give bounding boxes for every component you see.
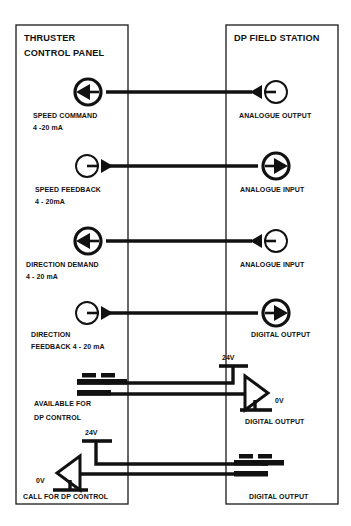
label-available-dp-line1: AVAILABLE FOR [34, 400, 91, 407]
dp-field-station-title: DP FIELD STATION [234, 33, 320, 43]
label-analogue-input-1: ANALOGUE INPUT [240, 186, 305, 193]
label-digital-output-3: DIGITAL OUTPUT [249, 493, 309, 500]
label-0v-call: 0V [36, 477, 45, 484]
label-direction-feedback-line1: DIRECTION [31, 331, 70, 338]
label-direction-demand-line1: DIRECTION DEMAND [26, 261, 99, 268]
label-direction-demand-line2: 4 - 20 mA [26, 273, 58, 280]
label-digital-output-1: DIGITAL OUTPUT [251, 331, 311, 338]
label-direction-feedback-line2: FEEDBACK 4 - 20 mA [31, 343, 105, 350]
label-speed-feedback-line1: SPEED FEEDBACK [35, 186, 101, 193]
diagram-canvas: THRUSTER CONTROL PANEL DP FIELD STATION … [0, 0, 351, 526]
label-24v-available: 24V [222, 354, 235, 361]
symbol-circle-arrow-in-left-direction-demand [75, 228, 101, 254]
label-analogue-output-1: ANALOGUE OUTPUT [239, 112, 312, 119]
label-0v-available: 0V [275, 397, 284, 404]
thruster-panel-title-line2: CONTROL PANEL [24, 48, 104, 58]
label-24v-call: 24V [85, 429, 98, 436]
label-speed-command-line2: 4 -20 mA [33, 124, 63, 131]
label-available-dp-line2: DP CONTROL [34, 414, 82, 421]
label-call-for-dp-control: CALL FOR DP CONTROL [23, 493, 109, 500]
symbol-circle-arrow-in-left-speed-command [75, 79, 101, 105]
symbol-circle-arrow-in-right-analogue-input [263, 153, 289, 179]
label-analogue-input-2: ANALOGUE INPUT [240, 261, 305, 268]
thruster-panel-title-line1: THRUSTER [24, 33, 75, 43]
symbol-circle-arrow-in-right-digital-output [263, 300, 289, 326]
label-speed-command-line1: SPEED COMMAND [33, 112, 97, 119]
label-speed-feedback-line2: 4 - 20mA [35, 198, 65, 205]
label-digital-output-2: DIGITAL OUTPUT [245, 418, 305, 425]
